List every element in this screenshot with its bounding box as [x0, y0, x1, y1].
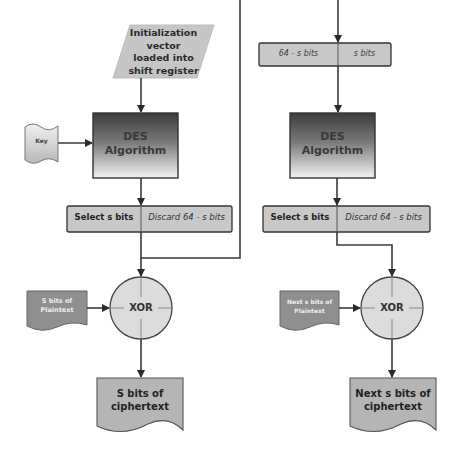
- iv-label-line1: Initialization: [117, 27, 210, 40]
- ciphertext-left-line2: ciphertext: [97, 400, 183, 413]
- des-label-right-line1: DES: [290, 130, 375, 144]
- register-left-label: 64 - s bits: [259, 49, 338, 58]
- connector-select-to-xor-right: [337, 232, 392, 276]
- plaintext-left-line1: S bits of: [27, 297, 87, 306]
- des-label-right: DES Algorithm: [290, 130, 375, 158]
- plaintext-right-line1: Next s bits of: [280, 297, 339, 306]
- diagram-canvas: [0, 0, 456, 452]
- xor-left-label: XOR: [124, 302, 158, 314]
- plaintext-right-label: Next s bits of Plaintext: [280, 297, 339, 315]
- ciphertext-right-label: Next s bits of ciphertext: [350, 387, 436, 413]
- des-label-right-line2: Algorithm: [290, 144, 375, 158]
- discard-left-label: Discard 64 - s bits: [141, 213, 232, 223]
- iv-label: Initialization vector loaded into shift …: [117, 27, 210, 77]
- des-label-left-line1: DES: [93, 130, 178, 144]
- ciphertext-left-line1: S bits of: [97, 387, 183, 400]
- ciphertext-right-line2: ciphertext: [350, 400, 436, 413]
- iv-label-line2: vector: [117, 40, 210, 53]
- register-right-label: s bits: [338, 49, 391, 58]
- iv-label-line3: loaded into: [117, 52, 210, 65]
- discard-right-label: Discard 64 - s bits: [337, 213, 430, 223]
- ciphertext-right-line1: Next s bits of: [350, 387, 436, 400]
- ciphertext-left-label: S bits of ciphertext: [97, 387, 183, 413]
- des-label-left: DES Algorithm: [93, 130, 178, 158]
- plaintext-left-label: S bits of Plaintext: [27, 297, 87, 315]
- des-label-left-line2: Algorithm: [93, 144, 178, 158]
- key-label: Key: [25, 138, 58, 145]
- iv-label-line4: shift register: [117, 65, 210, 78]
- select-left-label: Select s bits: [67, 213, 141, 223]
- select-right-label: Select s bits: [263, 213, 337, 223]
- plaintext-left-line2: Plaintext: [27, 306, 87, 315]
- plaintext-right-line2: Plaintext: [280, 306, 339, 315]
- xor-right-label: XOR: [375, 302, 409, 314]
